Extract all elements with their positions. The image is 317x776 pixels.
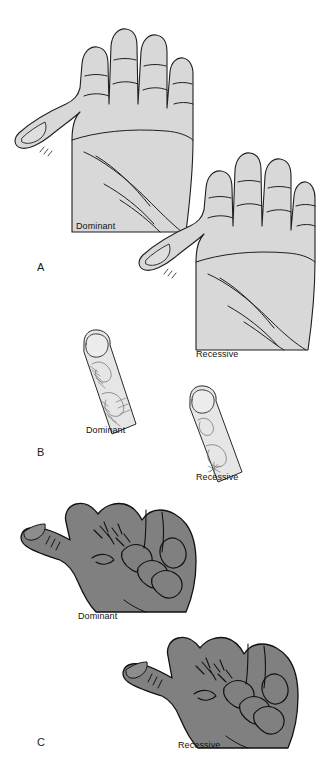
panel-c-letter: C xyxy=(37,736,45,748)
panel-c-recessive-clasped-hand xyxy=(123,637,298,748)
panel-a-letter: A xyxy=(37,261,45,273)
caption-a-recessive: Recessive xyxy=(196,349,238,359)
caption-c-recessive: Recessive xyxy=(178,740,220,750)
caption-c-dominant: Dominant xyxy=(78,611,117,621)
panel-b-dominant-finger xyxy=(84,330,136,434)
panel-c-dominant-clasped-hand xyxy=(21,503,196,612)
caption-b-recessive: Recessive xyxy=(196,472,238,482)
panel-a-dominant-hand xyxy=(15,29,193,232)
panel-b-recessive-finger xyxy=(190,386,242,482)
panel-b-letter: B xyxy=(37,446,45,458)
caption-b-dominant: Dominant xyxy=(86,425,125,435)
figure-hand-traits: A B C Dominant Recessive Dominant Recess… xyxy=(0,0,317,776)
panel-a-recessive-hand xyxy=(139,153,315,350)
caption-a-dominant: Dominant xyxy=(76,221,115,231)
figure-artwork xyxy=(0,0,317,776)
